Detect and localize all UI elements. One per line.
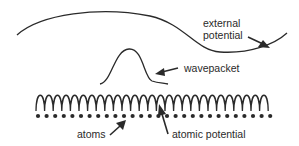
atom-dot bbox=[260, 114, 264, 118]
atom-dot bbox=[131, 114, 135, 118]
atom-dot bbox=[191, 114, 195, 118]
wavepacket-arrow bbox=[155, 68, 178, 76]
atom-dot bbox=[36, 114, 40, 118]
external-potential-arrow bbox=[248, 37, 270, 48]
atom-dot bbox=[242, 114, 246, 118]
atom-dot bbox=[165, 114, 169, 118]
atom-dot bbox=[45, 114, 49, 118]
wavepacket-label: wavepacket bbox=[183, 62, 240, 74]
atom-dot bbox=[88, 114, 92, 118]
atom-dot bbox=[70, 114, 74, 118]
atom-dot bbox=[225, 114, 229, 118]
atom-dot bbox=[122, 114, 126, 118]
atomic-potential-arrow bbox=[158, 104, 168, 134]
atom-dot bbox=[174, 114, 178, 118]
atom-dot bbox=[234, 114, 238, 118]
atom-dot bbox=[148, 114, 152, 118]
wavepacket-curve bbox=[100, 49, 168, 84]
atom-dot bbox=[199, 114, 203, 118]
atom-dot bbox=[217, 114, 221, 118]
atomic-potential-label: atomic potential bbox=[172, 128, 246, 140]
atom-dot bbox=[208, 114, 212, 118]
atomic-potential-curve bbox=[36, 95, 268, 111]
atom-dot bbox=[113, 114, 117, 118]
physics-diagram: external potential wavepacket atoms atom… bbox=[0, 0, 299, 146]
atom-dot bbox=[53, 114, 57, 118]
atoms-arrow bbox=[110, 120, 126, 135]
atom-dot bbox=[251, 114, 255, 118]
atom-dot bbox=[79, 114, 83, 118]
atom-dot bbox=[62, 114, 66, 118]
external-potential-label-line2: potential bbox=[203, 29, 243, 41]
external-potential-curve bbox=[17, 12, 287, 53]
atoms-label: atoms bbox=[77, 128, 106, 140]
atom-dot bbox=[268, 114, 272, 118]
atom-dot bbox=[139, 114, 143, 118]
atom-dot bbox=[105, 114, 109, 118]
atom-dot bbox=[96, 114, 100, 118]
external-potential-label-line1: external bbox=[203, 17, 240, 29]
atoms-row bbox=[36, 114, 272, 118]
atom-dot bbox=[182, 114, 186, 118]
